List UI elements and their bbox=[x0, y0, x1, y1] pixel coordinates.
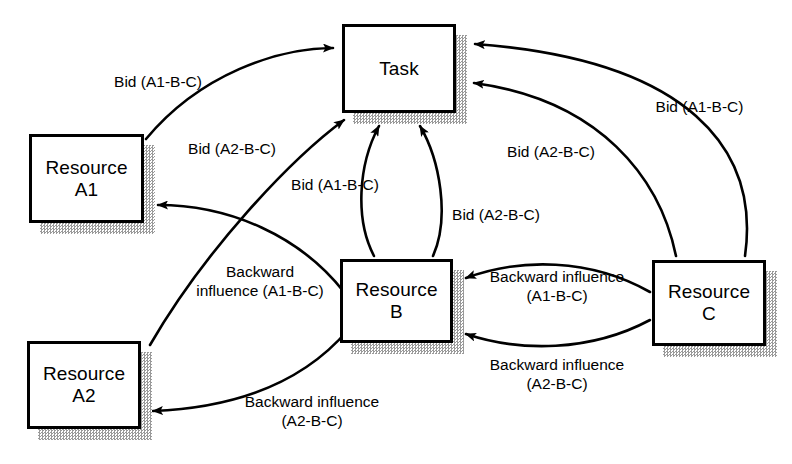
edge-label-backward-a1-right: Backward influence (A1-B-C) bbox=[476, 267, 638, 305]
node-task[interactable]: Task bbox=[342, 24, 456, 113]
node-resource-a1-label: Resource A1 bbox=[45, 157, 127, 201]
node-resource-a2-label: Resource A2 bbox=[43, 363, 125, 407]
edge-label-bid-a2-center: Bid (A2-B-C) bbox=[436, 206, 556, 224]
edge-label-bid-a1-right: Bid (A1-B-C) bbox=[637, 98, 762, 116]
edge-a1-to-task bbox=[146, 48, 333, 139]
node-resource-b[interactable]: Resource B bbox=[340, 259, 453, 343]
edge-label-bid-a2-right: Bid (A2-B-C) bbox=[490, 143, 612, 161]
edge-c-to-b-a2 bbox=[466, 320, 650, 346]
edge-label-backward-a1-left: Backward influence (A1-B-C) bbox=[182, 262, 338, 300]
diagram-canvas: Task Resource A1 Resource A2 Resource B … bbox=[0, 0, 792, 464]
edge-label-bid-a1-center: Bid (A1-B-C) bbox=[275, 176, 395, 194]
edge-label-backward-a2-left: Backward influence (A2-B-C) bbox=[232, 392, 392, 430]
node-resource-a2[interactable]: Resource A2 bbox=[27, 341, 141, 429]
edge-label-backward-a2-right: Backward influence (A2-B-C) bbox=[476, 355, 638, 393]
node-resource-c[interactable]: Resource C bbox=[652, 260, 766, 346]
edge-b-to-task-a2 bbox=[420, 126, 442, 256]
node-resource-b-label: Resource B bbox=[355, 279, 437, 323]
node-resource-c-label: Resource C bbox=[668, 281, 750, 325]
edge-label-bid-a2-left: Bid (A2-B-C) bbox=[172, 140, 292, 158]
node-resource-a1[interactable]: Resource A1 bbox=[29, 134, 144, 223]
node-task-label: Task bbox=[379, 58, 418, 80]
edge-label-bid-a1-left: Bid (A1-B-C) bbox=[98, 73, 218, 91]
